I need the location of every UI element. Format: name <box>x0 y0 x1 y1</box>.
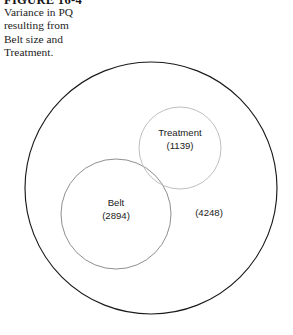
residual-circle <box>25 62 277 314</box>
treatment-label: Treatment <box>158 127 202 138</box>
treatment-value: (1139) <box>166 140 193 151</box>
venn-diagram: Treatment (1139) Belt (2894) (4248) <box>0 0 293 335</box>
residual-value: (4248) <box>195 207 223 218</box>
belt-label: Belt <box>108 197 125 208</box>
belt-value: (2894) <box>102 210 130 221</box>
figure-container: FIGURE 16-4 Variance in PQ resulting fro… <box>0 0 293 335</box>
